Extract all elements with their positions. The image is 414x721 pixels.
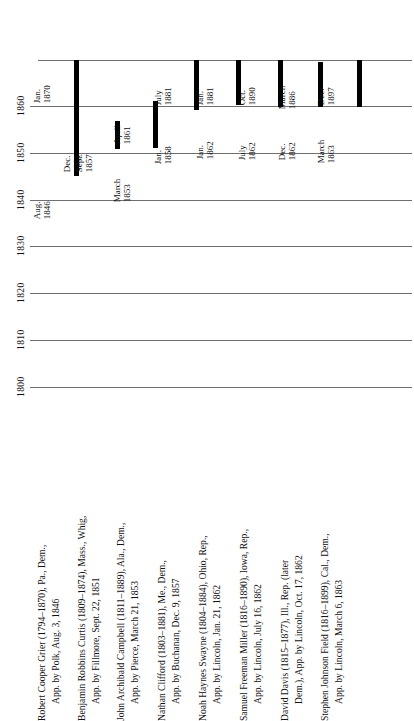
bar-start-label-grier: Aug. 1846: [33, 201, 52, 219]
bar-start-label-campbell: March 1853: [113, 179, 132, 203]
axis-tick-1810: 1810: [16, 329, 26, 350]
bar-start-label-field: March 1863: [317, 140, 336, 164]
gridline-1840: [30, 200, 412, 201]
justice-label-clifford: Nathan Clifford (1803–1881), Me., Dem., …: [155, 560, 182, 721]
bar-end-label-swayne: Jan. 1881: [196, 87, 215, 105]
bar-start-label-swayne: Jan. 1862: [196, 141, 215, 159]
gridline-1800: [30, 387, 412, 388]
justice-label-campbell: John Archibald Campbell (1811–1889), Ala…: [114, 523, 141, 721]
justice-label-miller: Samuel Freeman Miller (1816–1890), Iowa,…: [237, 529, 264, 721]
gridline-1870: [38, 60, 412, 61]
justice-label-grier: Robert Cooper Grier (1794–1870), Pa., De…: [35, 545, 62, 721]
axis-tick-1800: 1800: [16, 376, 26, 397]
gridline-1820: [30, 293, 412, 294]
term-bar-campbell: [153, 101, 158, 148]
justice-label-swayne: Noah Haynes Swayne (1804–1884), Ohio, Re…: [196, 535, 223, 721]
justice-label-curtis: Benjamin Robbins Curtis (1809–1874), Mas…: [75, 516, 102, 721]
gridline-1810: [30, 340, 412, 341]
bar-start-label-miller: July 1862: [238, 142, 257, 160]
gridline-1860: [30, 106, 412, 107]
bar-end-label-clifford: July 1881: [154, 87, 173, 105]
bar-end-label-miller: Oct. 1890: [238, 87, 257, 105]
axis-tick-1850: 1850: [16, 142, 26, 163]
bar-end-label-davis: March 1886: [278, 86, 297, 110]
axis-tick-1840: 1840: [16, 189, 26, 210]
bar-start-label-curtis: Dec. 1851: [63, 154, 82, 172]
bar-start-label-clifford: Jan. 1858: [154, 146, 173, 164]
bar-start-label-davis: Dec. 1862: [278, 142, 297, 160]
justice-label-field: Stephen Johnson Field (1816–1899), Cal.,…: [318, 533, 345, 721]
axis-tick-1820: 1820: [16, 282, 26, 303]
term-bar-field: [357, 60, 362, 107]
gridline-1830: [30, 246, 412, 247]
axis-tick-1860: 1860: [16, 95, 26, 116]
bar-end-label-campbell: April 1861: [113, 125, 132, 144]
axis-tick-1830: 1830: [16, 235, 26, 256]
justice-label-davis: David Davis (1815–1877), Ill., Rep. (lat…: [278, 555, 305, 721]
bar-end-label-field: Dec. 1897: [317, 87, 336, 105]
bar-end-label-grier: Jan. 1870: [33, 85, 52, 103]
